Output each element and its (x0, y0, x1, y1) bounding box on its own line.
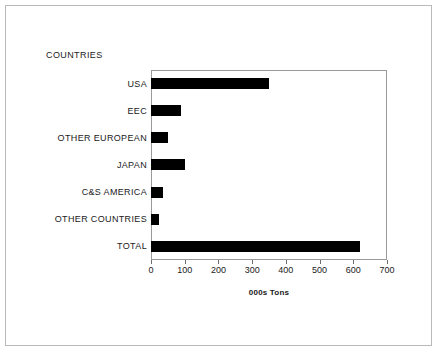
bar-row (151, 151, 387, 178)
category-label-other-countries: OTHER COUNTRIES (24, 206, 147, 233)
bar-row (151, 179, 387, 206)
bar-row (151, 124, 387, 151)
x-tick-500 (320, 260, 321, 264)
bar-row (151, 233, 387, 260)
category-label-other-european: OTHER EUROPEAN (24, 124, 147, 151)
bar-row (151, 206, 387, 233)
chart-page: COUNTRIES USA EEC OTHER EUROPEAN JAPAN C… (0, 0, 438, 352)
category-axis-title: COUNTRIES (46, 50, 103, 60)
x-tick-400 (286, 260, 287, 264)
category-label-cs-america: C&S AMERICA (24, 179, 147, 206)
bar-eec (151, 105, 181, 116)
x-tick-0 (151, 260, 152, 264)
x-axis-tick-labels: 0100200300400500600700 (151, 265, 387, 277)
category-label-usa: USA (24, 70, 147, 97)
x-tick-label-400: 400 (278, 265, 293, 275)
category-tick-labels: USA EEC OTHER EUROPEAN JAPAN C&S AMERICA… (24, 70, 147, 260)
x-tick-200 (218, 260, 219, 264)
bar-japan (151, 159, 185, 170)
x-tick-label-600: 600 (346, 265, 361, 275)
x-axis-title: 000s Tons (151, 288, 387, 297)
bar-usa (151, 78, 269, 89)
x-tick-label-200: 200 (211, 265, 226, 275)
bar-total (151, 241, 360, 252)
x-tick-700 (387, 260, 388, 264)
x-tick-label-0: 0 (148, 265, 153, 275)
bar-other-countries (151, 214, 159, 225)
x-tick-300 (252, 260, 253, 264)
x-tick-600 (353, 260, 354, 264)
category-label-japan: JAPAN (24, 151, 147, 178)
x-tick-label-500: 500 (312, 265, 327, 275)
bars-layer (151, 70, 387, 260)
category-label-total: TOTAL (24, 233, 147, 260)
category-label-eec: EEC (24, 97, 147, 124)
x-tick-100 (185, 260, 186, 264)
bar-row (151, 97, 387, 124)
bar-chart-figure: COUNTRIES USA EEC OTHER EUROPEAN JAPAN C… (0, 0, 438, 352)
x-tick-label-100: 100 (177, 265, 192, 275)
x-tick-label-300: 300 (245, 265, 260, 275)
bar-other-european (151, 132, 168, 143)
bar-row (151, 70, 387, 97)
x-tick-label-700: 700 (379, 265, 394, 275)
bar-cs-america (151, 187, 163, 198)
